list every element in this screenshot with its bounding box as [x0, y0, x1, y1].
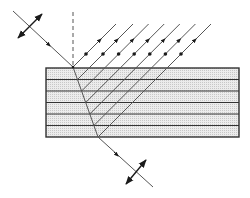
- direction-arrow-icon: [130, 40, 132, 42]
- direction-arrow-icon: [146, 40, 148, 42]
- polarization-dot-icon: [179, 52, 183, 56]
- direction-arrow-icon: [193, 40, 195, 42]
- reflected-ray: [73, 24, 116, 67]
- direction-arrow-icon: [98, 40, 100, 42]
- polarization-dot-icon: [84, 52, 88, 56]
- polarization-dot-icon: [132, 52, 136, 56]
- diagram-canvas: Reflection and refraction of polarized l…: [0, 0, 250, 198]
- entry-point: [72, 66, 75, 69]
- direction-arrow-icon: [162, 40, 164, 42]
- multilayer-reflection-diagram: [0, 0, 250, 198]
- multilayer-stack: [46, 68, 239, 137]
- direction-arrow-icon: [115, 40, 117, 42]
- incident-ray: [13, 11, 73, 67]
- polarization-double-arrow-icon: [126, 160, 146, 184]
- direction-arrow-icon: [177, 40, 179, 42]
- polarization-dot-icon: [101, 52, 105, 56]
- polarization-dot-icon: [164, 52, 168, 56]
- polarization-dot-icon: [148, 52, 152, 56]
- polarization-dot-icon: [117, 52, 121, 56]
